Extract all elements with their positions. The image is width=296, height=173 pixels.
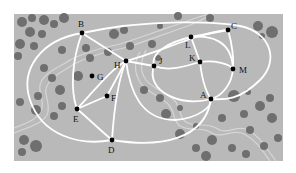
svg-text:J: J (159, 56, 163, 66)
map-background (14, 14, 283, 161)
svg-text:H: H (114, 60, 121, 70)
svg-text:C: C (231, 21, 237, 31)
svg-text:B: B (78, 19, 84, 29)
svg-text:M: M (239, 65, 247, 75)
svg-text:E: E (73, 114, 79, 124)
svg-text:A: A (200, 90, 207, 100)
trail-map: A B C D E F G H J K L M (0, 0, 296, 173)
svg-text:G: G (97, 72, 104, 82)
svg-text:L: L (185, 40, 191, 50)
svg-text:K: K (189, 53, 196, 63)
svg-text:D: D (108, 145, 115, 155)
svg-text:F: F (111, 93, 116, 103)
